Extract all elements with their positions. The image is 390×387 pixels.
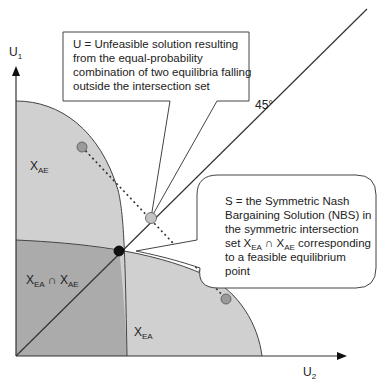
point-ae-equilibrium: [77, 142, 87, 152]
callout-s-line: to a feasible equilibrium: [225, 250, 371, 264]
y-axis-label: U1: [9, 46, 22, 61]
x-axis-label: U2: [303, 366, 316, 381]
callout-s-line: S = the Symmetric Nash: [225, 194, 371, 208]
callout-s-line: set XEA ∩ XAE corresponding: [225, 236, 371, 250]
x-axis-arrow-icon: [337, 352, 347, 360]
region-x-ea-label: XEA: [134, 326, 153, 341]
point-s: [114, 246, 124, 256]
callout-s-text: S = the Symmetric Nash Bargaining Soluti…: [225, 194, 371, 278]
diagonal-label: 45°: [255, 99, 273, 111]
point-ea-equilibrium: [221, 294, 231, 304]
callout-s-line: point: [225, 264, 371, 278]
point-u: [146, 213, 157, 224]
callout-u-line: U = Unfeasible solution resulting: [73, 37, 251, 51]
callout-s-line: Bargaining Solution (NBS) in: [225, 208, 371, 222]
region-x-ae-label: XAE: [30, 160, 49, 175]
region-intersection: [16, 240, 127, 356]
y-axis-arrow-icon: [12, 66, 20, 76]
callout-u-line: combination of two equilibria falling: [73, 65, 251, 79]
callout-u-line: from the equal-probability: [73, 51, 251, 65]
callout-u-line: outside the intersection set: [73, 79, 251, 93]
callout-s-line: the symmetric intersection: [225, 222, 371, 236]
callout-u-text: U = Unfeasible solution resulting from t…: [73, 37, 251, 93]
region-intersection-label: XEA ∩ XAE: [26, 274, 79, 289]
